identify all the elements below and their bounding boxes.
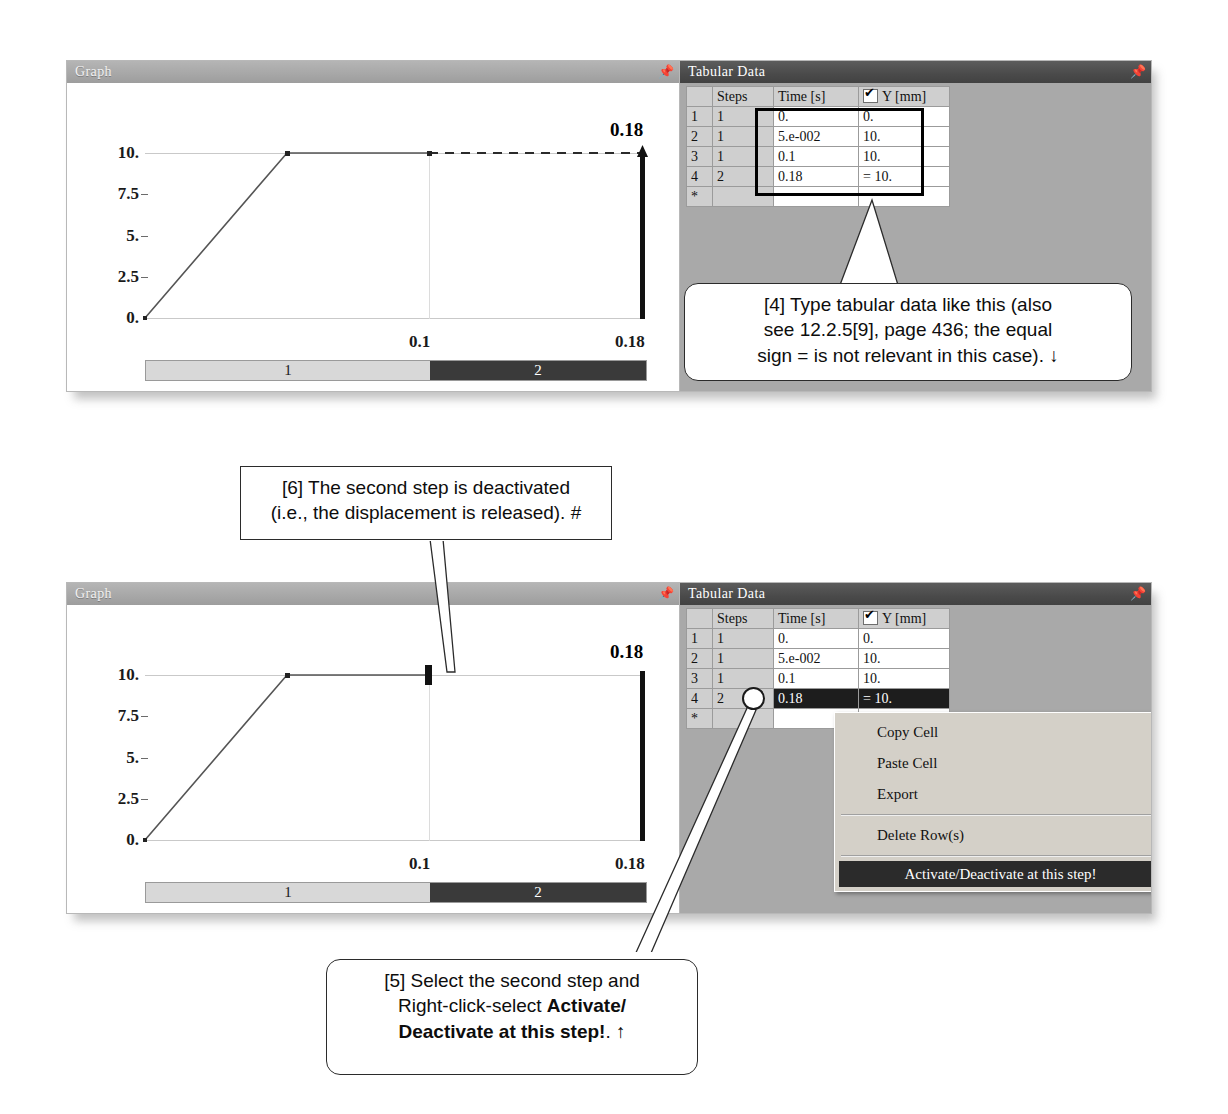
- cell-steps[interactable]: 1: [713, 107, 774, 127]
- top-graph-curve: [67, 83, 679, 391]
- cell-y[interactable]: 10.: [859, 649, 950, 669]
- grid-header-row: Steps Time [s] Y [mm]: [687, 609, 950, 629]
- bottom-graph-curve: [67, 605, 679, 913]
- table-row[interactable]: 2 1 5.e-002 10.: [687, 127, 950, 147]
- new-row-marker: *: [687, 709, 713, 729]
- cell-time[interactable]: 0.18: [774, 167, 859, 187]
- menu-item-paste-cell[interactable]: Paste Cell: [835, 748, 1151, 779]
- cell-y-empty[interactable]: [859, 187, 950, 207]
- y-column-checkbox[interactable]: [863, 89, 878, 103]
- table-row[interactable]: 4 2 0.18 = 10.: [687, 167, 950, 187]
- row-number: 1: [687, 629, 713, 649]
- cell-time[interactable]: 0.: [774, 629, 859, 649]
- top-tabular-titlebar: Tabular Data 📌: [680, 61, 1151, 84]
- bottom-tabular-title: Tabular Data: [688, 586, 765, 602]
- callout-note-6-line-2: (i.e., the displacement is released). #: [253, 500, 599, 525]
- top-graph-titlebar: Graph 📌: [67, 61, 679, 84]
- step-segment-1: 1: [146, 883, 430, 902]
- table-row[interactable]: 1 1 0. 0.: [687, 629, 950, 649]
- cell-time[interactable]: 0.18: [774, 689, 859, 709]
- row-number: 2: [687, 127, 713, 147]
- bottom-window: Graph 📌 10. 7.5 5. 2.5 0. 0.: [66, 582, 1152, 914]
- cell-time[interactable]: 0.: [774, 107, 859, 127]
- pushpin-icon[interactable]: 📌: [658, 64, 672, 80]
- grid-corner-header: [687, 87, 713, 107]
- callout-note-4-line-1: [4] Type tabular data like this (also: [697, 292, 1119, 317]
- cell-time[interactable]: 0.1: [774, 669, 859, 689]
- grid-header-time[interactable]: Time [s]: [774, 609, 859, 629]
- row-number: 1: [687, 107, 713, 127]
- menu-separator: [841, 814, 1151, 816]
- cell-y[interactable]: 10.: [859, 147, 950, 167]
- cell-time[interactable]: 0.1: [774, 147, 859, 167]
- cell-time[interactable]: 5.e-002: [774, 127, 859, 147]
- bottom-plot-area: 10. 7.5 5. 2.5 0. 0.1 0.18 0.18: [67, 605, 679, 913]
- cell-steps[interactable]: 1: [713, 649, 774, 669]
- grid-header-row: Steps Time [s] Y [mm]: [687, 87, 950, 107]
- cell-steps-empty[interactable]: [713, 709, 774, 729]
- top-grid-body: 1 1 0. 0. 2 1 5.e-002 10. 3: [687, 107, 950, 207]
- cell-y[interactable]: 0.: [859, 107, 950, 127]
- bottom-tabular-panel: Tabular Data 📌 Steps Time [s] Y [mm]: [680, 583, 1151, 913]
- table-row[interactable]: 1 1 0. 0.: [687, 107, 950, 127]
- pushpin-icon[interactable]: 📌: [1130, 64, 1144, 80]
- table-row[interactable]: 3 1 0.1 10.: [687, 669, 950, 689]
- grid-header-time[interactable]: Time [s]: [774, 87, 859, 107]
- cell-steps[interactable]: 1: [713, 669, 774, 689]
- callout-note-6: [6] The second step is deactivated (i.e.…: [240, 466, 612, 540]
- cell-y[interactable]: = 10.: [859, 689, 950, 709]
- cell-y[interactable]: = 10.: [859, 167, 950, 187]
- cell-steps[interactable]: 1: [713, 127, 774, 147]
- top-graph-title: Graph: [75, 64, 112, 80]
- menu-item-activate-deactivate[interactable]: Activate/Deactivate at this step!: [839, 861, 1151, 887]
- cell-steps[interactable]: 1: [713, 629, 774, 649]
- bottom-data-grid[interactable]: Steps Time [s] Y [mm] 1 1 0. 0.: [686, 608, 950, 729]
- table-row[interactable]: 3 1 0.1 10.: [687, 147, 950, 167]
- pushpin-icon[interactable]: 📌: [658, 586, 672, 602]
- cell-steps[interactable]: 2: [713, 167, 774, 187]
- bottom-graph-panel: Graph 📌 10. 7.5 5. 2.5 0. 0.: [67, 583, 680, 913]
- cell-y[interactable]: 10.: [859, 669, 950, 689]
- figure-root: Graph 📌 10. 7.5 5. 2.5 0.: [0, 0, 1228, 1114]
- top-graph-panel: Graph 📌 10. 7.5 5. 2.5 0.: [67, 61, 680, 391]
- grid-header-y-label: Y [mm]: [882, 611, 926, 626]
- step-segment-2: 2: [430, 883, 646, 902]
- table-row[interactable]: 2 1 5.e-002 10.: [687, 649, 950, 669]
- cell-context-menu[interactable]: Copy Cell Paste Cell Export Delete Row(s…: [834, 712, 1151, 892]
- top-data-grid[interactable]: Steps Time [s] Y [mm] 1 1 0. 0.: [686, 86, 950, 207]
- grid-header-steps[interactable]: Steps: [713, 609, 774, 629]
- step-segment-2: 2: [430, 361, 646, 380]
- bottom-tabular-body: Steps Time [s] Y [mm] 1 1 0. 0.: [680, 605, 1151, 913]
- bottom-tabular-titlebar: Tabular Data 📌: [680, 583, 1151, 606]
- table-new-row[interactable]: *: [687, 187, 950, 207]
- menu-item-copy-cell[interactable]: Copy Cell: [835, 717, 1151, 748]
- bottom-graph-titlebar: Graph 📌: [67, 583, 679, 606]
- y-column-checkbox[interactable]: [863, 611, 878, 625]
- selection-circle-marker: [742, 687, 765, 710]
- row-number: 3: [687, 669, 713, 689]
- callout-note-5-line-2-plain: Right-click-select: [398, 995, 547, 1016]
- pushpin-icon[interactable]: 📌: [1130, 586, 1144, 602]
- cell-steps-empty[interactable]: [713, 187, 774, 207]
- cell-time[interactable]: 5.e-002: [774, 649, 859, 669]
- table-row-selected[interactable]: 4 2 0.18 = 10.: [687, 689, 950, 709]
- menu-item-delete-rows[interactable]: Delete Row(s): [835, 820, 1151, 851]
- menu-item-export[interactable]: Export: [835, 779, 1151, 810]
- row-number: 4: [687, 167, 713, 187]
- callout-note-4: [4] Type tabular data like this (also se…: [684, 283, 1132, 381]
- callout-note-5-line-3: Deactivate at this step!. ↑: [339, 1019, 685, 1044]
- callout-note-4-line-2: see 12.2.5[9], page 436; the equal: [697, 317, 1119, 342]
- grid-corner-header: [687, 609, 713, 629]
- top-graph-body: 10. 7.5 5. 2.5 0. 0.1 0.18 0.18: [67, 83, 679, 391]
- row-number: 2: [687, 649, 713, 669]
- menu-separator: [841, 855, 1151, 857]
- grid-header-steps[interactable]: Steps: [713, 87, 774, 107]
- grid-header-y[interactable]: Y [mm]: [859, 87, 950, 107]
- cell-time-empty[interactable]: [774, 187, 859, 207]
- cell-y[interactable]: 10.: [859, 127, 950, 147]
- cell-y[interactable]: 0.: [859, 629, 950, 649]
- bottom-graph-body: 10. 7.5 5. 2.5 0. 0.1 0.18 0.18: [67, 605, 679, 913]
- new-row-marker: *: [687, 187, 713, 207]
- cell-steps[interactable]: 1: [713, 147, 774, 167]
- grid-header-y[interactable]: Y [mm]: [859, 609, 950, 629]
